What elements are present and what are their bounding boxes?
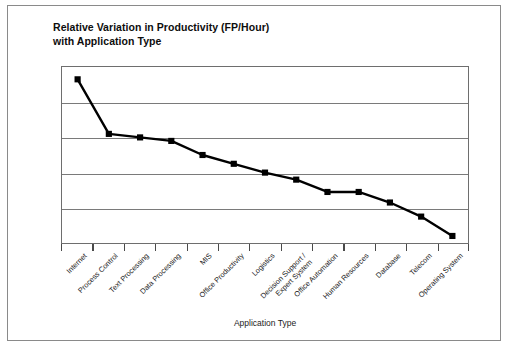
data-point-marker[interactable]: Decision Support / Expert System: 36 [293,177,299,183]
x-axis-tick-marks [61,244,469,251]
data-point-marker[interactable]: Text Processing: 60 [137,134,143,140]
x-axis-category-label: Logistics [251,252,277,278]
figure-frame: Relative Variation in Productivity (FP/H… [7,5,501,341]
x-axis-tick [249,244,250,251]
x-axis-tick [343,244,344,251]
data-point-marker[interactable]: Human Resources: 29 [356,189,362,195]
x-axis-tick [375,244,376,251]
data-point-marker[interactable]: Internet: 93 [75,76,81,82]
data-point-marker[interactable]: Database: 23 [387,199,393,205]
category-label-line1: MIS [198,251,214,267]
data-point-marker[interactable]: MIS: 50 [199,152,205,158]
x-axis-tick [187,244,188,251]
data-point-marker[interactable]: Office Automation: 29 [324,189,330,195]
x-axis-category-label: Database [374,252,402,280]
x-axis-tick [124,244,125,251]
x-axis-tick [281,244,282,251]
category-label-line1: Logistics [250,251,277,278]
x-axis-tick [218,244,219,251]
x-axis-tick [312,244,313,251]
category-label-line1: Telecom [408,251,434,277]
data-point-marker[interactable]: Logistics: 40 [262,170,268,176]
x-axis-category-label: Telecom [408,252,434,278]
x-axis-tick [406,244,407,251]
x-axis-title: Application Type [61,318,469,328]
category-label-line1: Internet [64,251,88,275]
data-point-marker[interactable]: Telecom: 15 [418,214,424,220]
data-point-marker[interactable]: Process Control: 62 [106,131,112,137]
x-axis-category-label: Internet [65,252,89,276]
x-axis-tick [61,244,62,251]
series-polyline [78,79,453,236]
data-point-marker[interactable]: Data Processing: 58 [168,138,174,144]
x-axis-tick [468,244,469,251]
data-point-marker[interactable]: Operating System: 4 [449,233,455,239]
x-axis-category-label: MIS [199,252,214,267]
series-line-chart: Internet: 93Process Control: 62Text Proc… [62,67,468,243]
x-axis-category-labels: InternetProcess ControlText ProcessingDa… [61,252,469,314]
chart-title: Relative Variation in Productivity (FP/H… [53,20,433,48]
category-label-line1: Database [373,251,402,280]
x-axis-tick [155,244,156,251]
x-axis-tick [438,244,439,251]
x-axis-tick [92,244,93,251]
data-point-marker[interactable]: Office Productivity: 45 [231,161,237,167]
plot-area: Internet: 93Process Control: 62Text Proc… [61,66,469,244]
